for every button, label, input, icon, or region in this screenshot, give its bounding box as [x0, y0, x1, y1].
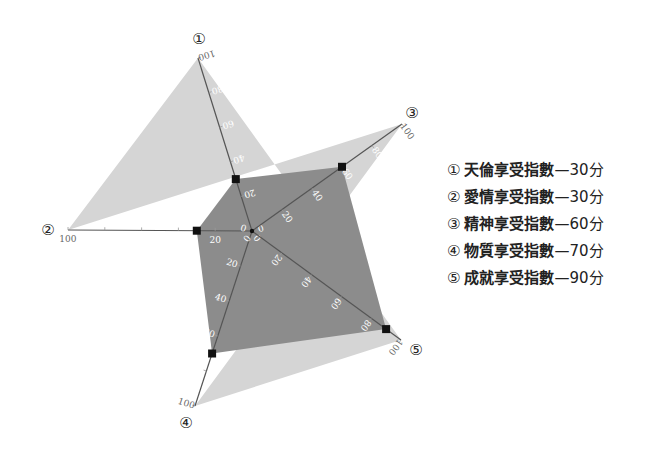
tick-label: 100 [59, 234, 76, 244]
legend: ①天倫享受指數—30分 ②愛情享受指數—30分 ③精神享受指數—60分 ④物質享… [447, 157, 604, 292]
tick-label: 40 [173, 235, 185, 245]
tick-label: 80 [99, 234, 111, 244]
legend-number: ⑤ [447, 269, 460, 287]
legend-score: —90分 [554, 269, 603, 287]
legend-label: 精神享受指數 [464, 215, 554, 233]
axis-number-label: ⑤ [409, 341, 422, 359]
tick-label: 100 [177, 396, 197, 411]
axis-number-label: ③ [405, 104, 418, 122]
data-point-marker [338, 163, 346, 171]
legend-number: ① [447, 161, 460, 179]
legend-item: ②愛情享受指數—30分 [447, 184, 604, 211]
tick-label: 80 [191, 362, 205, 375]
legend-label: 愛情享受指數 [464, 188, 554, 206]
legend-label: 成就享受指數 [464, 269, 554, 287]
tick-label: 100 [197, 48, 217, 63]
tick-mark [204, 370, 207, 371]
data-point-marker [193, 227, 201, 235]
legend-score: —30分 [554, 161, 603, 179]
legend-score: —70分 [554, 242, 603, 260]
legend-item: ⑤成就享受指數—90分 [447, 265, 604, 292]
center-dot [250, 229, 254, 233]
axis-number-label: ② [41, 221, 54, 239]
data-point-marker [208, 350, 216, 358]
axis-number-label: ① [192, 30, 205, 48]
axis-number-label: ④ [179, 414, 192, 432]
tick-label: 100 [398, 121, 416, 141]
legend-score: —30分 [554, 188, 603, 206]
legend-label: 天倫享受指數 [464, 161, 554, 179]
legend-number: ④ [447, 242, 460, 260]
tick-label: 20 [209, 235, 221, 245]
legend-score: —60分 [554, 215, 603, 233]
legend-number: ③ [447, 215, 460, 233]
legend-number: ② [447, 188, 460, 206]
data-point-marker [382, 325, 390, 333]
tick-label: 60 [136, 234, 148, 244]
data-point-marker [232, 175, 240, 183]
legend-item: ③精神享受指數—60分 [447, 211, 604, 238]
legend-label: 物質享受指數 [464, 242, 554, 260]
legend-item: ④物質享受指數—70分 [447, 238, 604, 265]
legend-item: ①天倫享受指數—30分 [447, 157, 604, 184]
